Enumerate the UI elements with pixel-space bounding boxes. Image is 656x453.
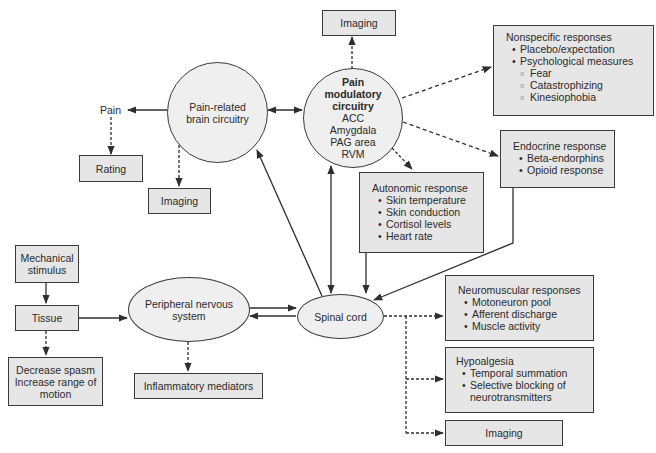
mechanical-line2: stimulus — [28, 264, 67, 276]
edge-spinal-to-brain — [257, 150, 322, 296]
imaging-bottom-box: Imaging — [445, 420, 563, 446]
autonomic-title: Autonomic response — [372, 182, 477, 194]
tissue-label: Tissue — [32, 312, 63, 324]
spinal-cord-label: Spinal cord — [314, 311, 367, 323]
neuromuscular-item: Motoneuron pool — [464, 296, 587, 308]
inflammatory-label: Inflammatory mediators — [144, 380, 254, 392]
imaging-left-box: Imaging — [148, 188, 211, 214]
pain-label: Pain — [100, 104, 121, 116]
decrease-line1: Decrease spasm — [16, 364, 95, 376]
autonomic-response-box: Autonomic response Skin temperature Skin… — [359, 172, 484, 253]
nonspecific-item: Psychological measures — [512, 55, 647, 67]
endocrine-response-box: Endocrine response Beta-endorphins Opioi… — [500, 130, 615, 188]
imaging-bottom-label: Imaging — [485, 427, 522, 439]
edge-modulatory-to-endocrine — [403, 122, 498, 156]
pain-modulatory-title: Pain modulatory circuitry — [318, 76, 388, 112]
autonomic-item: Cortisol levels — [378, 218, 477, 230]
edge-modulatory-to-nonspecific — [402, 67, 491, 98]
nonspecific-subitem: Fear — [512, 67, 647, 79]
endocrine-item: Opioid response — [519, 164, 608, 176]
hypoalgesia-item-continuation: neurotransmitters — [462, 391, 587, 403]
autonomic-item: Skin conduction — [378, 206, 477, 218]
peripheral-nervous-system-node: Peripheral nervous system — [128, 277, 250, 342]
neuromuscular-item: Muscle activity — [464, 320, 587, 332]
hypoalgesia-item: Selective blocking of — [462, 379, 587, 391]
autonomic-item: Heart rate — [378, 230, 477, 242]
imaging-top-box: Imaging — [322, 10, 396, 36]
rating-label: Rating — [96, 163, 126, 175]
neuromuscular-responses-box: Neuromuscular responses Motoneuron pool … — [445, 275, 594, 341]
neuromuscular-item: Afferent discharge — [464, 308, 587, 320]
mechanical-stimulus-box: Mechanical stimulus — [15, 245, 79, 283]
endocrine-title: Endocrine response — [513, 140, 608, 152]
spinal-cord-node: Spinal cord — [297, 294, 384, 339]
pain-related-brain-label: Pain-related brain circuitry — [179, 101, 257, 125]
modulatory-item-rvm: RVM — [341, 148, 364, 160]
neuromuscular-list: Motoneuron pool Afferent discharge Muscl… — [458, 296, 587, 332]
nonspecific-responses-box: Nonspecific responses Placebo/expectatio… — [493, 25, 654, 116]
decrease-line2: Increase range of — [15, 376, 97, 388]
nonspecific-subitem: Kinesiophobia — [512, 91, 647, 103]
inflammatory-mediators-box: Inflammatory mediators — [134, 373, 263, 399]
hypoalgesia-title: Hypoalgesia — [456, 355, 587, 367]
tissue-box: Tissue — [15, 305, 79, 331]
nonspecific-item: Placebo/expectation — [512, 43, 647, 55]
decrease-line3: motion — [40, 388, 72, 400]
modulatory-item-amygdala: Amygdala — [330, 124, 377, 136]
hypoalgesia-box: Hypoalgesia Temporal summation Selective… — [445, 347, 594, 413]
imaging-top-label: Imaging — [340, 17, 377, 29]
hypoalgesia-list: Temporal summation Selective blocking of… — [456, 367, 587, 403]
hypoalgesia-item: Temporal summation — [462, 367, 587, 379]
pain-related-brain-circuitry-node: Pain-related brain circuitry — [167, 62, 268, 163]
rating-box: Rating — [79, 155, 143, 182]
nonspecific-title: Nonspecific responses — [506, 31, 647, 43]
autonomic-list: Skin temperature Skin conduction Cortiso… — [372, 194, 477, 242]
endocrine-item: Beta-endorphins — [519, 152, 608, 164]
autonomic-item: Skin temperature — [378, 194, 477, 206]
modulatory-item-acc: ACC — [342, 112, 364, 124]
neuromuscular-title: Neuromuscular responses — [458, 284, 587, 296]
peripheral-nervous-label: Peripheral nervous system — [144, 298, 234, 322]
imaging-left-label: Imaging — [161, 195, 198, 207]
pain-modulatory-circuitry-node: Pain modulatory circuitry ACC Amygdala P… — [303, 68, 403, 168]
decrease-spasm-box: Decrease spasm Increase range of motion — [8, 357, 103, 406]
edge-modulatory-to-autonomic — [392, 148, 412, 169]
endocrine-list: Beta-endorphins Opioid response — [513, 152, 608, 176]
nonspecific-subitem: Catastrophizing — [512, 79, 647, 91]
modulatory-item-pag: PAG area — [330, 136, 375, 148]
nonspecific-list: Placebo/expectation Psychological measur… — [506, 43, 647, 103]
mechanical-line1: Mechanical — [20, 252, 73, 264]
